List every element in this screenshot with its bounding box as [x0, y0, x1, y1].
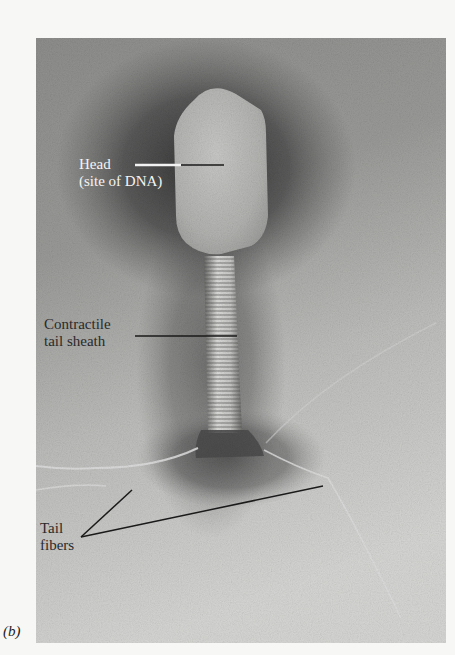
tail-fibers-label-line1: Tail: [40, 520, 74, 537]
head-label: Head (site of DNA): [79, 156, 162, 190]
head-label-line1: Head: [79, 156, 162, 173]
sheath-label-line1: Contractile: [44, 316, 111, 333]
phage-figure: Head (site of DNA) Contractile tail shea…: [0, 0, 455, 655]
panel-letter: (b): [3, 623, 21, 640]
sheath-label: Contractile tail sheath: [44, 316, 111, 350]
sheath-label-line2: tail sheath: [44, 333, 111, 350]
tail-fibers-label-line2: fibers: [40, 537, 74, 554]
head-label-line2: (site of DNA): [79, 173, 162, 190]
tail-fibers-label: Tail fibers: [40, 520, 74, 554]
